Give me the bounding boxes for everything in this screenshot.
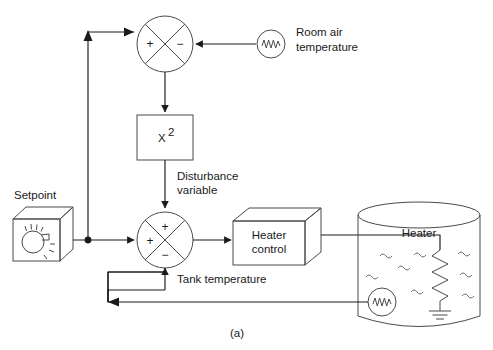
- figure-caption: (a): [230, 327, 244, 339]
- setpoint-block: [13, 207, 73, 261]
- squarer-exponent: 2: [168, 126, 174, 138]
- top-summing-junction: + −: [137, 16, 193, 72]
- tank-heater-label: Heater: [402, 227, 437, 239]
- figure-canvas: + − Room air temperature X 2 Disturbance…: [0, 0, 493, 350]
- top-summer-sign-right: −: [176, 37, 183, 51]
- disturbance-label-line2: variable: [177, 184, 217, 196]
- tank-temperature-label: Tank temperature: [177, 273, 267, 285]
- water-waves: [366, 252, 474, 298]
- squarer-label: X: [158, 132, 166, 144]
- disturbance-label-line1: Disturbance: [177, 170, 238, 182]
- heater-control-label-line1: Heater: [252, 229, 287, 241]
- bottom-summer-sign-top: +: [161, 220, 168, 234]
- room-air-label-line2: temperature: [296, 41, 358, 53]
- thermistor-zigzag-icon: [373, 298, 391, 306]
- setpoint-branch-node: [85, 237, 92, 244]
- bottom-summing-junction: + + −: [137, 212, 193, 268]
- tank-temperature-sensor: [368, 288, 396, 316]
- top-summer-input-arrow: [124, 28, 134, 37]
- heater-element-icon: [429, 250, 451, 319]
- top-summer-sign-left: +: [146, 37, 153, 51]
- tank: [358, 202, 480, 327]
- setpoint-branch-to-top-summer: [88, 32, 134, 240]
- heater-control-block: Heater control: [233, 208, 321, 265]
- bottom-summer-sign-bottom: −: [161, 248, 168, 262]
- feedback-riser: [108, 272, 165, 302]
- squarer-block: X 2: [137, 115, 193, 160]
- heater-control-label-line2: control: [252, 243, 287, 255]
- room-air-sensor: [257, 30, 285, 58]
- dial-pointer-icon: [41, 234, 49, 240]
- thermistor-zigzag-icon: [262, 40, 280, 48]
- room-air-label-line1: Room air: [296, 26, 343, 38]
- control-system-diagram: + − Room air temperature X 2 Disturbance…: [0, 0, 493, 350]
- bottom-summer-sign-left: +: [146, 234, 153, 248]
- feedback-left-arrow: [108, 298, 119, 307]
- setpoint-label: Setpoint: [14, 189, 57, 201]
